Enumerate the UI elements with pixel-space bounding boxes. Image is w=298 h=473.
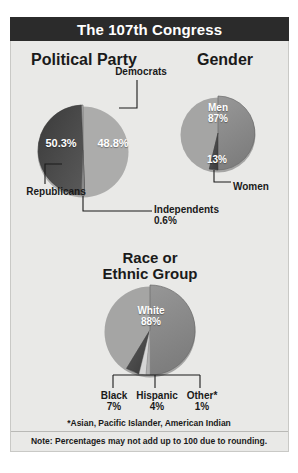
value-democrats-percent: 48.8%	[88, 137, 138, 149]
value-republicans-percent: 50.3%	[36, 137, 86, 149]
label-white: White 88%	[125, 305, 177, 327]
label-women: Women	[233, 181, 283, 192]
value-women-percent: 13%	[199, 154, 235, 165]
label-men: Men 87%	[193, 102, 243, 124]
label-independents: Independents 0.6%	[154, 204, 252, 226]
note-divider	[11, 431, 288, 432]
leader-line-democrats	[119, 80, 137, 108]
footnote-asterisk: *Asian, Pacific Islander, American India…	[18, 418, 280, 428]
rounding-note: Note: Percentages may not add up to 100 …	[18, 436, 280, 446]
pie-race-ethnic-group	[105, 285, 201, 388]
label-democrats: Democrats	[106, 66, 176, 77]
leader-line-independents	[83, 196, 152, 211]
label-black: Black 7%	[94, 390, 134, 412]
label-hispanic: Hispanic 4%	[133, 390, 181, 412]
congress-infographic: The 107th Congress Political Party Gende…	[0, 0, 298, 473]
label-republicans: Republicans	[12, 186, 100, 197]
label-other: Other* 1%	[180, 390, 224, 412]
